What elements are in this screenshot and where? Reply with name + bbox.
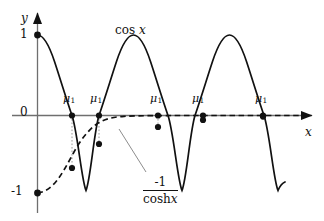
axis-dot-2 bbox=[96, 112, 102, 118]
root-label-subscript: 1 bbox=[199, 96, 204, 105]
y-tick-label-1: 1 bbox=[20, 28, 28, 40]
axis-dot-3 bbox=[155, 112, 161, 118]
cosine-label-head: cos bbox=[115, 23, 135, 37]
root-label-mu-3: μ1 bbox=[150, 93, 162, 105]
root-label-mu-1: μ1 bbox=[63, 93, 75, 105]
y-tick-label-minus1: -1 bbox=[11, 185, 23, 197]
label-leader-line bbox=[119, 129, 146, 172]
root-label-subscript: 1 bbox=[70, 96, 75, 105]
sech-label-denominator: coshx bbox=[143, 191, 178, 206]
intersection-dot-5 bbox=[260, 114, 266, 120]
sech-label-denominator-variable: x bbox=[171, 192, 178, 206]
sech-curve-label: -1 coshx bbox=[143, 175, 178, 206]
endpoint-dot-top bbox=[34, 32, 41, 39]
y-axis-label: y bbox=[21, 12, 28, 24]
y-tick-label-0: 0 bbox=[20, 106, 28, 118]
intersection-dot-3 bbox=[155, 124, 161, 130]
axis-dot-1 bbox=[69, 112, 75, 118]
endpoint-dot-bottom bbox=[34, 190, 41, 197]
math-figure: y x 1 0 -1 cos x μ1 μ1 μ1 μ1 μ1 -1 coshx bbox=[0, 0, 324, 221]
sech-label-denominator-head: cosh bbox=[143, 192, 171, 206]
root-label-subscript: 1 bbox=[262, 96, 267, 105]
cosine-label-variable: x bbox=[139, 23, 146, 37]
cosine-curve-label: cos x bbox=[115, 24, 146, 36]
intersection-dot-4 bbox=[200, 117, 206, 123]
root-label-mu-4: μ1 bbox=[192, 93, 204, 105]
sech-label-numerator: -1 bbox=[143, 175, 178, 191]
intersection-dot-2 bbox=[96, 141, 102, 147]
root-label-subscript: 1 bbox=[97, 96, 102, 105]
root-label-subscript: 1 bbox=[157, 96, 162, 105]
root-label-mu-5: μ1 bbox=[255, 93, 267, 105]
intersection-dot-1 bbox=[69, 165, 75, 171]
x-axis-label: x bbox=[305, 126, 312, 138]
root-label-mu-2: μ1 bbox=[90, 93, 102, 105]
